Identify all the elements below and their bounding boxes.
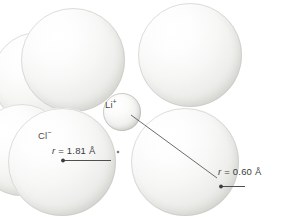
chloride-charge: − <box>47 129 51 136</box>
chloride-ion-label: Cl− <box>38 129 51 141</box>
lithium-charge: + <box>113 98 117 105</box>
chloride-sphere-bottom-right <box>131 108 239 216</box>
lithium-symbol: Li <box>105 99 113 110</box>
cation-radius-equals: = <box>221 166 232 177</box>
cation-radius-label: r = 0.60 Å <box>218 167 262 177</box>
anion-radius-value: 1.81 <box>67 145 86 156</box>
anion-radius-label: r = 1.81 Å <box>52 146 96 156</box>
sphere-stage <box>0 0 281 217</box>
chloride-symbol: Cl <box>38 130 47 141</box>
chloride-sphere-top-right <box>138 3 242 107</box>
anion-radius-equals: = <box>55 145 66 156</box>
lithium-ion-label: Li+ <box>105 98 117 110</box>
cation-radius-value: 0.60 <box>233 166 252 177</box>
cation-radius-unit: Å <box>255 166 262 177</box>
anion-radius-unit: Å <box>89 145 96 156</box>
chloride-sphere-bottom-left <box>8 108 116 216</box>
licl-ionic-radii-figure: Li+ Cl− r = 1.81 Å r = 0.60 Å <box>0 0 281 217</box>
